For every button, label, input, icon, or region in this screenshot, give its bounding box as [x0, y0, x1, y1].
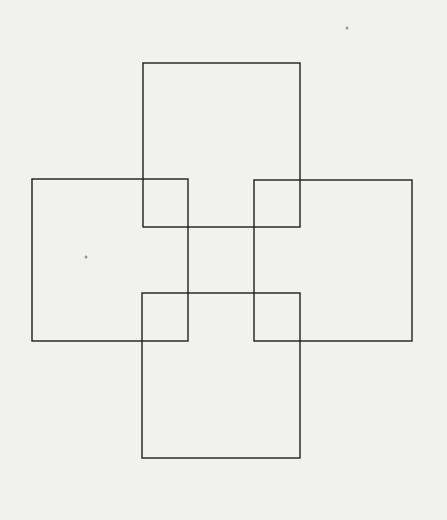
- scan-speck: [346, 27, 349, 30]
- diagram-canvas: [0, 0, 447, 520]
- bottom-square: [142, 293, 300, 458]
- top-square: [143, 63, 300, 227]
- left-square: [32, 179, 188, 341]
- overlapping-squares-diagram: [0, 0, 447, 520]
- scan-speck: [85, 256, 88, 259]
- right-square: [254, 180, 412, 341]
